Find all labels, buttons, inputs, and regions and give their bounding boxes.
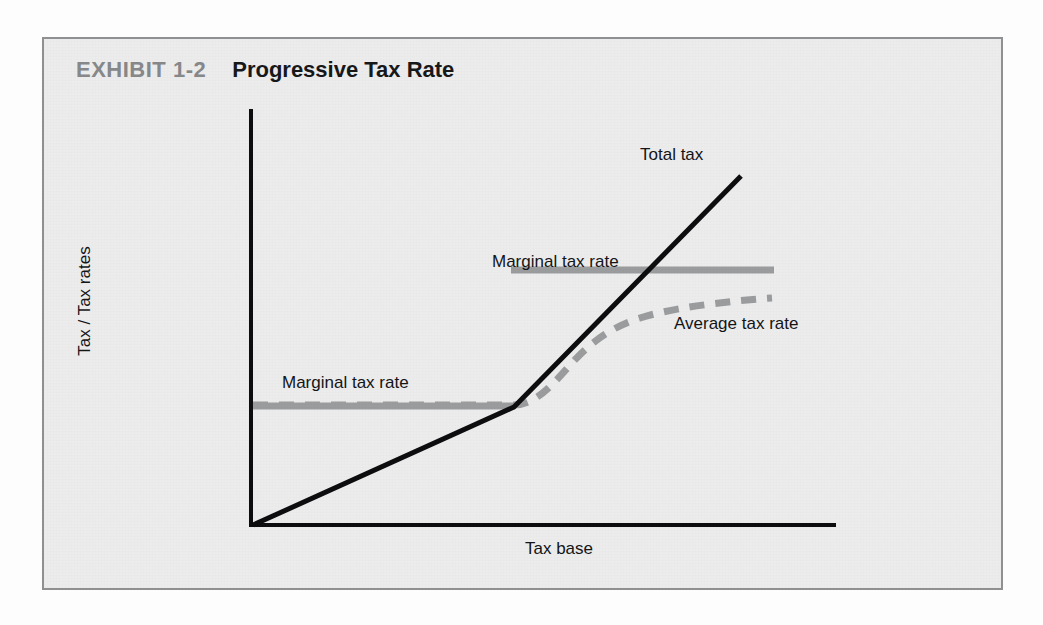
- x-axis-label: Tax base: [499, 539, 619, 559]
- series-label-marginal-tax-rate-upper: Marginal tax rate: [492, 252, 619, 272]
- page-canvas: EXHIBIT 1-2 Progressive Tax Rate Ta: [0, 0, 1043, 625]
- series-label-average-tax-rate: Average tax rate: [674, 314, 798, 334]
- exhibit-frame: EXHIBIT 1-2 Progressive Tax Rate Ta: [42, 37, 1003, 590]
- progressive-tax-rate-chart: [44, 39, 1001, 588]
- total-tax-line: [253, 176, 741, 525]
- y-axis-label: Tax / Tax rates: [75, 216, 95, 386]
- series-label-marginal-tax-rate-lower: Marginal tax rate: [282, 373, 409, 393]
- series-label-total-tax: Total tax: [640, 145, 703, 165]
- chart-plot-area: Tax / Tax rates Tax base Total tax Margi…: [44, 39, 1001, 588]
